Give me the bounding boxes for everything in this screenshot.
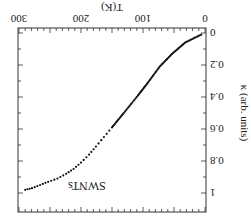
x-tick-label: 100 bbox=[134, 13, 151, 25]
chart-area: 010020030000.20.40.60.81 T(K) κ (arb. un… bbox=[0, 0, 251, 218]
x-axis-label: T(K) bbox=[101, 1, 123, 14]
y-tick-label: 0.6 bbox=[210, 123, 224, 135]
x-tick-label: 0 bbox=[202, 13, 208, 25]
y-tick-label: 0.2 bbox=[210, 59, 224, 71]
tick-labels: 010020030000.20.40.60.81 bbox=[10, 13, 224, 199]
chart-svg: 010020030000.20.40.60.81 T(K) κ (arb. un… bbox=[0, 0, 251, 218]
y-axis-label: κ (arb. units) bbox=[238, 85, 251, 142]
axes-frame bbox=[18, 28, 206, 212]
y-tick-label: 0.4 bbox=[210, 91, 224, 103]
series-annotation: SWNTs bbox=[68, 179, 106, 193]
x-tick-label: 300 bbox=[10, 13, 27, 25]
y-tick-label: 1 bbox=[210, 187, 216, 199]
y-tick-label: 0 bbox=[210, 27, 216, 39]
x-tick-label: 200 bbox=[72, 13, 89, 25]
data-series-swnts bbox=[24, 34, 202, 191]
axis-ticks bbox=[18, 28, 206, 212]
y-tick-label: 0.8 bbox=[210, 155, 224, 167]
